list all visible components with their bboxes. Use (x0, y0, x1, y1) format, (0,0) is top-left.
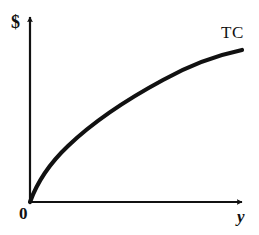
total-cost-curve (30, 50, 242, 202)
y-axis-label: $ (11, 13, 20, 31)
origin-label: 0 (19, 205, 28, 222)
x-axis-label: y (237, 208, 245, 225)
curve-label-tc: TC (221, 24, 244, 41)
tc-curve-figure: $ TC 0 y (0, 0, 259, 235)
